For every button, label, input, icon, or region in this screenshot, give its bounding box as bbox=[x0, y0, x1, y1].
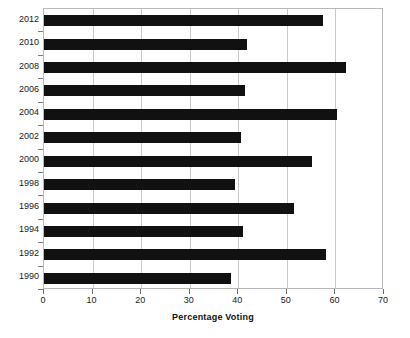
x-axis-tick-mark bbox=[43, 289, 44, 294]
bar bbox=[44, 203, 294, 214]
x-axis-tick-mark bbox=[237, 289, 238, 294]
x-axis-tick-label: 20 bbox=[120, 295, 160, 305]
bar bbox=[44, 132, 241, 143]
x-axis-tick-mark bbox=[189, 289, 190, 294]
y-axis-tick-label: 2000 bbox=[3, 155, 39, 164]
bar bbox=[44, 273, 231, 284]
x-axis-tick-label: 10 bbox=[72, 295, 112, 305]
bar bbox=[44, 15, 323, 26]
gridline bbox=[190, 9, 191, 288]
bar bbox=[44, 249, 326, 260]
plot-area bbox=[43, 8, 383, 289]
bar bbox=[44, 85, 245, 96]
gridline bbox=[287, 9, 288, 288]
x-axis-tick-label: 30 bbox=[169, 295, 209, 305]
bar bbox=[44, 109, 337, 120]
x-axis-tick-label: 60 bbox=[314, 295, 354, 305]
gridline bbox=[335, 9, 336, 288]
x-axis-tick-mark bbox=[383, 289, 384, 294]
y-axis-tick-label: 2012 bbox=[3, 15, 39, 24]
x-axis-title: Percentage Voting bbox=[43, 312, 383, 322]
y-axis-tick-label: 1992 bbox=[3, 249, 39, 258]
y-axis-labels: 2012201020082006200420022000199819961994… bbox=[0, 8, 39, 289]
y-axis-tick-label: 2002 bbox=[3, 132, 39, 141]
x-axis-tick-mark bbox=[334, 289, 335, 294]
y-axis-tick-label: 2010 bbox=[3, 38, 39, 47]
gridline bbox=[141, 9, 142, 288]
y-axis-tick-label: 2004 bbox=[3, 108, 39, 117]
x-axis-tick-label: 70 bbox=[363, 295, 403, 305]
gridline bbox=[238, 9, 239, 288]
bar-chart: 2012201020082006200420022000199819961994… bbox=[0, 0, 410, 338]
x-axis-tick-label: 0 bbox=[23, 295, 63, 305]
y-axis-tick-label: 2006 bbox=[3, 85, 39, 94]
x-axis-tick-label: 50 bbox=[266, 295, 306, 305]
gridline bbox=[93, 9, 94, 288]
bar bbox=[44, 226, 243, 237]
x-axis-tick-label: 40 bbox=[217, 295, 257, 305]
x-axis-tick-mark bbox=[140, 289, 141, 294]
bar bbox=[44, 179, 235, 190]
y-axis-tick-label: 1990 bbox=[3, 272, 39, 281]
bar bbox=[44, 62, 346, 73]
y-axis-tick-label: 2008 bbox=[3, 62, 39, 71]
x-axis-tick-mark bbox=[286, 289, 287, 294]
bar bbox=[44, 39, 247, 50]
x-axis: 010203040506070 bbox=[43, 289, 383, 309]
y-axis-tick-label: 1994 bbox=[3, 225, 39, 234]
y-axis-tick-label: 1996 bbox=[3, 202, 39, 211]
y-axis-tick-label: 1998 bbox=[3, 179, 39, 188]
x-axis-tick-mark bbox=[92, 289, 93, 294]
bar bbox=[44, 156, 312, 167]
